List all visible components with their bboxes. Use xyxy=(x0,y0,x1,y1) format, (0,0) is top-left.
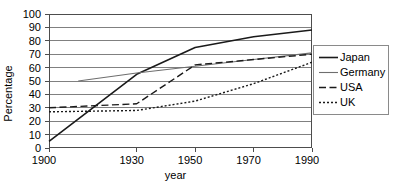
x-tick-label: 1990 xyxy=(295,155,319,166)
chart-legend: JapanGermanyUSAUK xyxy=(313,45,389,115)
y-tick-label: 100 xyxy=(1,9,41,20)
legend-label: UK xyxy=(339,97,355,108)
y-tick-label: 90 xyxy=(1,22,41,33)
x-axis-title: year xyxy=(44,169,307,181)
x-tick-label: 1930 xyxy=(119,155,143,166)
legend-label: Japan xyxy=(339,52,370,63)
y-tick-label: 0 xyxy=(1,143,41,154)
y-tick-label: 30 xyxy=(1,102,41,113)
x-tick-label: 1970 xyxy=(236,155,260,166)
x-axis-tick-labels: 19001930195019701990 xyxy=(0,155,394,169)
x-tick-label: 1900 xyxy=(32,155,56,166)
legend-swatch-uk-icon xyxy=(318,97,339,108)
series-line-japan xyxy=(49,30,312,141)
legend-item-usa[interactable]: USA xyxy=(318,80,385,95)
legend-swatch-usa-icon xyxy=(318,82,339,93)
y-tick-label: 20 xyxy=(1,116,41,127)
legend-label: USA xyxy=(339,82,363,93)
legend-swatch-japan-icon xyxy=(318,52,339,63)
x-tick-label: 1950 xyxy=(178,155,202,166)
series-line-uk xyxy=(49,62,312,112)
series-line-germany xyxy=(78,53,312,81)
y-tick-label: 70 xyxy=(1,49,41,60)
chart-figure: Percentage 0102030405060708090100 190019… xyxy=(0,0,394,187)
y-tick-label: 40 xyxy=(1,89,41,100)
y-tick-label: 60 xyxy=(1,62,41,73)
y-tick-label: 50 xyxy=(1,76,41,87)
data-series-layer xyxy=(49,30,312,141)
legend-item-uk[interactable]: UK xyxy=(318,95,385,110)
legend-item-germany[interactable]: Germany xyxy=(318,65,385,80)
legend-item-japan[interactable]: Japan xyxy=(318,50,385,65)
y-tick-label: 10 xyxy=(1,129,41,140)
y-tick-label: 80 xyxy=(1,35,41,46)
legend-swatch-germany-icon xyxy=(318,67,339,78)
plot-area xyxy=(44,14,307,154)
legend-label: Germany xyxy=(339,67,385,78)
